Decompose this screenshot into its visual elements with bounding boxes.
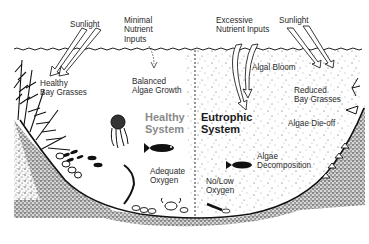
label-sunlight-eutrophic: Sunlight [279,16,309,25]
label-excessive-nutrient: Excessive Nutrient Inputs [216,16,269,35]
label-no-low-oxygen-line2: Oxygen [206,186,234,195]
label-balanced-algae: Balanced Algae Growth [132,77,182,96]
label-algae-dieoff: Algae Die-off [288,119,335,128]
label-no-low-oxygen-line1: No/Low [206,177,234,186]
label-reduced-bay-grasses-line2: Bay Grasses [294,95,341,104]
eutrophic-system-title-line2: System [201,123,252,135]
label-healthy-bay-grasses-line1: Healthy [40,79,87,88]
label-healthy-bay-grasses: Healthy Bay Grasses [40,79,87,98]
label-balanced-algae-line2: Algae Growth [132,86,182,95]
label-adequate-oxygen-line2: Oxygen [150,176,185,185]
healthy-system-title: Healthy System [145,111,185,135]
label-minimal-nutrient: Minimal Nutrient Inputs [124,16,153,44]
label-adequate-oxygen-line1: Adequate [150,167,185,176]
sunlight-arrows-healthy [50,28,101,76]
eel [124,165,134,204]
healthy-system-title-line1: Healthy [145,111,185,123]
healthy-system-title-line2: System [145,123,185,135]
water-surface [14,48,362,50]
fish-healthy [144,143,174,153]
label-minimal-nutrient-line1: Minimal [124,16,153,25]
label-minimal-nutrient-line3: Inputs [124,35,153,44]
label-reduced-bay-grasses: Reduced Bay Grasses [294,86,341,105]
label-algae-decomposition-line2: Decomposition [257,161,311,170]
label-excessive-nutrient-line1: Excessive [216,16,269,25]
label-healthy-bay-grasses-line2: Bay Grasses [40,88,87,97]
label-algal-bloom: Algal Bloom [252,63,296,72]
label-reduced-bay-grasses-line1: Reduced [294,86,341,95]
label-sunlight-healthy: Sunlight [70,20,100,29]
label-minimal-nutrient-line2: Nutrient [124,25,153,34]
eutrophication-diagram: Sunlight Minimal Nutrient Inputs Healthy… [0,0,369,244]
eutrophic-system-title: Eutrophic System [201,111,252,135]
eutrophic-system-title-line1: Eutrophic [201,111,252,123]
label-algae-decomposition: Algae Decomposition [257,152,311,171]
oyster-reef-bottom [132,206,188,214]
label-excessive-nutrient-line2: Nutrient Inputs [216,25,269,34]
label-no-low-oxygen: No/Low Oxygen [206,177,234,196]
label-adequate-oxygen: Adequate Oxygen [150,167,185,186]
label-balanced-algae-line1: Balanced [132,77,182,86]
small-fish-pair [88,156,103,167]
crab [161,198,181,210]
jellyfish [111,115,128,148]
label-algae-decomposition-line1: Algae [257,152,311,161]
